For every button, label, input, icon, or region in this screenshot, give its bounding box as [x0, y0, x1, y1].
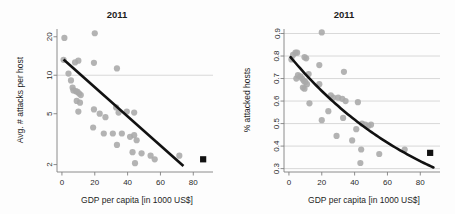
data-point: [355, 99, 361, 105]
scatter-plot-right: 020406080 0.30.40.50.60.70.80.9 2011 GDP…: [228, 0, 455, 214]
y-tick-label: 10: [46, 70, 55, 79]
y-tick-label: 0.6: [273, 95, 282, 107]
data-point: [294, 50, 300, 56]
data-point: [97, 111, 103, 117]
y-axis-label-right: % attacked hosts: [242, 68, 252, 133]
data-point: [319, 117, 325, 123]
highlight-square-marker: [427, 150, 433, 156]
x-axis-label-left: GDP per capita [in 1000 US$]: [81, 195, 193, 205]
y-tick-label: 5: [46, 111, 55, 116]
data-point: [357, 160, 363, 166]
data-point: [119, 130, 125, 136]
panel-title-right: 2011: [334, 9, 355, 20]
x-tick-label: 0: [287, 178, 292, 187]
y-tick-label: 0.5: [273, 117, 282, 129]
data-point: [333, 133, 339, 139]
data-point: [61, 35, 67, 41]
data-point: [342, 98, 348, 104]
data-point: [75, 58, 81, 64]
data-point: [91, 60, 97, 66]
data-point: [78, 92, 84, 98]
y-tick-label: 0.8: [273, 50, 282, 62]
highlight-square-marker: [200, 156, 206, 162]
data-point: [75, 108, 81, 114]
x-tick-label: 20: [317, 178, 326, 187]
scatter-plot-left: 020406080 251020 2011 GDP per capita [in…: [0, 0, 228, 214]
panel-title-left: 2011: [107, 9, 128, 20]
data-point: [368, 122, 374, 128]
data-point: [131, 110, 137, 116]
figure-container: 020406080 251020 2011 GDP per capita [in…: [0, 0, 455, 214]
data-point: [134, 137, 140, 143]
data-point: [341, 69, 347, 75]
x-tick-label: 40: [350, 178, 359, 187]
data-point: [68, 77, 74, 83]
data-point: [358, 146, 364, 152]
x-tick-label: 0: [60, 178, 65, 187]
y-tick-label: 0.4: [273, 140, 282, 152]
data-point: [91, 106, 97, 112]
data-point: [110, 130, 116, 136]
x-tick-label: 40: [123, 178, 132, 187]
data-point: [301, 86, 307, 92]
highlight-marker-right: [427, 150, 433, 156]
data-point: [138, 150, 144, 156]
data-point: [376, 151, 382, 157]
chart-panel-right: 020406080 0.30.40.50.60.70.80.9 2011 GDP…: [228, 0, 455, 214]
x-tick-label: 60: [383, 178, 392, 187]
data-point: [319, 29, 325, 35]
data-point: [101, 130, 107, 136]
x-tick-label: 80: [189, 178, 198, 187]
data-point: [325, 108, 331, 114]
data-point: [92, 30, 98, 36]
data-point: [77, 100, 83, 106]
data-point: [303, 55, 309, 61]
x-tick-label: 60: [156, 178, 165, 187]
data-point: [114, 142, 120, 148]
y-tick-label: 2: [46, 162, 55, 167]
data-point: [353, 126, 359, 132]
x-tick-label: 20: [90, 178, 99, 187]
data-point: [340, 115, 346, 121]
x-tick-label: 80: [416, 178, 425, 187]
data-point: [65, 71, 71, 77]
y-tick-label: 0.3: [273, 163, 282, 175]
y-tick-label: 20: [46, 32, 55, 41]
data-point: [306, 100, 312, 106]
highlight-marker-left: [200, 156, 206, 162]
chart-panel-left: 020406080 251020 2011 GDP per capita [in…: [0, 0, 228, 214]
data-point: [152, 156, 158, 162]
data-point: [176, 153, 182, 159]
data-point: [90, 124, 96, 130]
data-point: [132, 160, 138, 166]
y-tick-label: 0.7: [273, 72, 282, 84]
data-point: [316, 62, 322, 68]
data-point: [114, 65, 120, 71]
y-axis-label-left: Avg. # attacks per host: [15, 56, 25, 143]
x-axis-label-right: GDP per capita [in 1000 US$]: [308, 195, 420, 205]
data-point: [102, 114, 108, 120]
data-point: [349, 137, 355, 143]
data-point: [129, 149, 135, 155]
y-tick-label: 0.9: [273, 27, 282, 39]
